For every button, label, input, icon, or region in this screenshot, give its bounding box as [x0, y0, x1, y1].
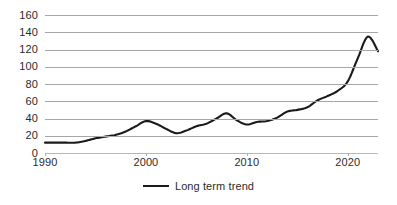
y-tick-label-20: 20 — [0, 130, 38, 141]
y-tick-label-80: 80 — [0, 79, 38, 90]
x-tick-mark-2010 — [247, 153, 248, 156]
gridline-60 — [45, 101, 378, 102]
y-axis: 160140120100806040200 — [0, 0, 38, 205]
x-tick-mark-2000 — [146, 153, 147, 156]
y-tick-label-120: 120 — [0, 44, 38, 55]
gridline-0 — [45, 153, 378, 154]
x-tick-mark-1990 — [45, 153, 46, 156]
line-chart-figure: 160140120100806040200 1990200020102020 L… — [0, 0, 397, 205]
x-tick-label-2010: 2010 — [222, 156, 272, 168]
legend-line-icon — [143, 185, 169, 187]
gridline-80 — [45, 84, 378, 85]
gridline-40 — [45, 119, 378, 120]
y-tick-label-100: 100 — [0, 61, 38, 72]
gridline-160 — [45, 15, 378, 16]
gridline-120 — [45, 50, 378, 51]
legend-label: Long term trend — [175, 180, 254, 192]
gridline-140 — [45, 32, 378, 33]
x-tick-mark-2020 — [348, 153, 349, 156]
x-tick-label-2020: 2020 — [323, 156, 373, 168]
x-tick-label-1990: 1990 — [20, 156, 70, 168]
y-tick-label-140: 140 — [0, 27, 38, 38]
gridline-100 — [45, 67, 378, 68]
chart-legend: Long term trend — [0, 180, 397, 192]
x-axis: 1990200020102020 — [0, 156, 397, 172]
y-tick-label-40: 40 — [0, 113, 38, 124]
y-tick-label-160: 160 — [0, 10, 38, 21]
x-tick-label-2000: 2000 — [121, 156, 171, 168]
y-tick-label-60: 60 — [0, 96, 38, 107]
gridline-20 — [45, 136, 378, 137]
plot-area — [45, 15, 378, 153]
